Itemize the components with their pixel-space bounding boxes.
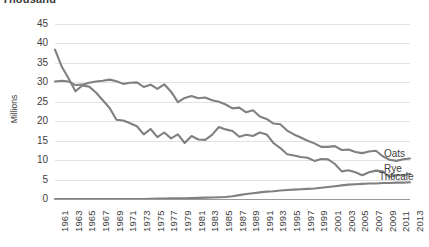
- series-label-triticale: Triticale: [379, 171, 414, 182]
- series-labels: OatsRyeTriticale: [0, 0, 429, 247]
- series-label-oats: Oats: [384, 148, 405, 159]
- line-chart: Thousand Millions 454035302520151050 196…: [0, 0, 429, 247]
